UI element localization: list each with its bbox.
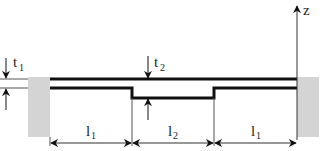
svg-text:l: l — [251, 123, 255, 139]
svg-text:t: t — [13, 54, 18, 70]
t2-label: t 2 — [154, 54, 165, 73]
z-axis-label: z — [303, 2, 310, 18]
diagram-svg: z t 1 t 2 l 1 l 2 — [0, 0, 320, 151]
t1-label: t 1 — [13, 54, 24, 73]
left-wall — [28, 77, 50, 137]
plate-diagram: z t 1 t 2 l 1 l 2 — [0, 0, 320, 151]
l1-right-label: l 1 — [251, 123, 261, 141]
svg-text:1: 1 — [256, 130, 261, 141]
svg-text:2: 2 — [173, 130, 178, 141]
svg-text:l: l — [168, 123, 172, 139]
svg-text:l: l — [86, 123, 90, 139]
svg-text:1: 1 — [91, 130, 96, 141]
l1-left-label: l 1 — [86, 123, 96, 141]
right-wall — [297, 77, 319, 137]
l2-middle-label: l 2 — [168, 123, 178, 141]
svg-text:t: t — [154, 54, 159, 70]
svg-text:2: 2 — [160, 62, 165, 73]
plate-bottom-surface — [50, 88, 297, 98]
svg-text:z: z — [303, 2, 310, 18]
svg-text:1: 1 — [19, 62, 24, 73]
